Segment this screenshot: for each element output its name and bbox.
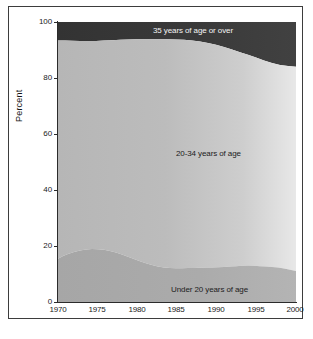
x-tick-label-1990: 1990	[202, 305, 230, 314]
y-tick-mark-60	[54, 134, 57, 135]
y-tick-mark-100	[54, 22, 57, 23]
band-label-over-35: 35 years of age or over	[153, 26, 233, 35]
y-tick-mark-20	[54, 246, 57, 247]
y-tick-label-20: 20	[18, 242, 52, 250]
x-tick-label-1970: 1970	[44, 305, 72, 314]
y-tick-mark-80	[54, 78, 57, 79]
figure-caption	[10, 327, 306, 337]
x-axis-line	[57, 302, 297, 303]
x-tick-label-1980: 1980	[123, 305, 151, 314]
y-tick-label-60: 60	[18, 130, 52, 138]
y-axis-title: Percent	[14, 90, 24, 122]
band-label-under-20: Under 20 years of age	[171, 285, 248, 294]
figure-container: 100 80 60 40 20 0 1970 1975 1980 1985 19…	[0, 0, 313, 339]
band-label-20-34: 20-34 years of age	[176, 149, 241, 158]
y-axis-line	[57, 21, 58, 303]
y-tick-label-100: 100	[18, 18, 52, 26]
x-tick-label-1975: 1975	[83, 305, 111, 314]
stacked-area-chart	[58, 22, 296, 302]
y-tick-label-40: 40	[18, 186, 52, 194]
x-tick-label-2000: 2000	[281, 305, 309, 314]
plot-area	[58, 22, 296, 302]
y-tick-label-80: 80	[18, 74, 52, 82]
x-tick-label-1985: 1985	[162, 305, 190, 314]
y-tick-mark-0	[54, 302, 57, 303]
y-tick-mark-40	[54, 190, 57, 191]
x-tick-label-1995: 1995	[242, 305, 270, 314]
